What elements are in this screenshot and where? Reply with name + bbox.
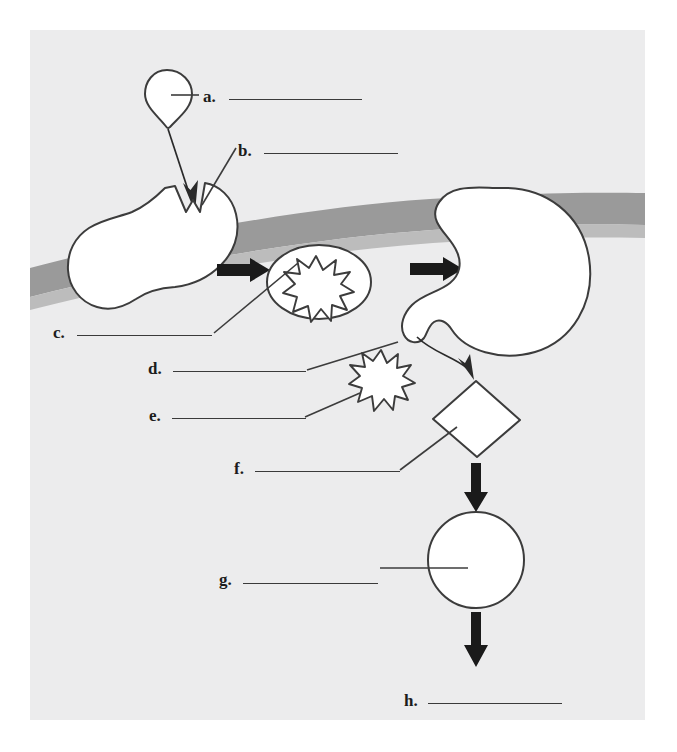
label-letter-h: h. (404, 692, 418, 709)
answer-blank-h[interactable] (428, 703, 562, 704)
label-letter-a: a. (203, 88, 216, 105)
diagram-canvas (0, 0, 677, 752)
diamond-particle-shape (433, 381, 520, 457)
answer-blank-a[interactable] (229, 99, 362, 100)
free-burst-shape (349, 350, 415, 411)
answer-blank-f[interactable] (255, 471, 400, 472)
figure-page: a. b. c. d. e. f. g. h. (0, 0, 677, 752)
leader-line-e (305, 393, 360, 417)
label-letter-d: d. (148, 360, 162, 377)
label-letter-g: g. (219, 571, 232, 588)
leader-line-f (400, 427, 457, 470)
answer-blank-g[interactable] (243, 583, 378, 584)
answer-blank-d[interactable] (173, 371, 306, 372)
teardrop-particle-shape (145, 70, 192, 128)
label-letter-e: e. (149, 407, 161, 424)
down-arrow-to-output (464, 612, 488, 667)
notched-cell-shape (68, 183, 238, 309)
circle-product-shape (428, 512, 524, 608)
label-letter-c: c. (53, 324, 65, 341)
answer-blank-c[interactable] (77, 335, 212, 336)
answer-blank-e[interactable] (172, 418, 306, 419)
answer-blank-b[interactable] (264, 153, 398, 154)
down-arrow-to-circle (464, 463, 488, 512)
label-letter-f: f. (234, 460, 244, 477)
label-letter-b: b. (238, 142, 252, 159)
